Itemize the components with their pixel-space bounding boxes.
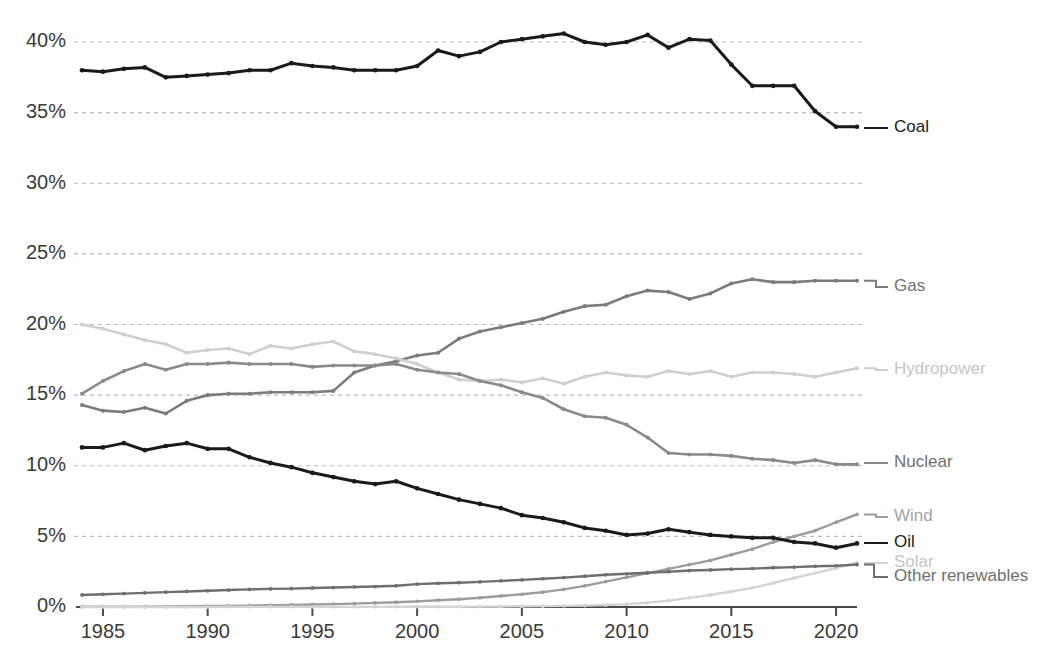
data-point: [227, 361, 231, 365]
data-point: [667, 599, 671, 603]
data-point: [331, 65, 336, 70]
legend-item-hydropower[interactable]: Hydropower: [864, 359, 986, 378]
legend-item-other-renewables[interactable]: Other renewables: [864, 565, 1028, 586]
y-tick-label: 30%: [26, 171, 66, 193]
data-point: [227, 392, 231, 396]
data-point: [813, 375, 817, 379]
data-point: [855, 124, 860, 129]
data-point: [457, 597, 461, 601]
legend-leader-line: [864, 565, 888, 577]
data-point: [436, 48, 441, 53]
data-point: [331, 389, 335, 393]
data-point: [164, 368, 168, 372]
data-point: [290, 605, 294, 609]
data-point: [583, 375, 587, 379]
data-point: [436, 581, 440, 585]
data-point: [562, 587, 566, 591]
x-tick-label: 1985: [81, 620, 126, 642]
data-point: [101, 69, 106, 74]
data-point: [813, 529, 817, 533]
series-line: [82, 325, 857, 384]
data-point: [310, 365, 314, 369]
chart-canvas: 0%5%10%15%20%25%30%35%40% 19851990199520…: [0, 0, 1051, 671]
data-point: [520, 380, 524, 384]
data-point: [771, 566, 775, 570]
data-point: [122, 441, 127, 446]
y-tick-label: 40%: [26, 29, 66, 51]
legend-group: CoalGasHydropowerNuclearWindOilSolarOthe…: [864, 117, 1028, 585]
data-point: [688, 563, 692, 567]
data-point: [101, 327, 105, 331]
y-tick-label: 10%: [26, 453, 66, 475]
data-point: [331, 605, 335, 609]
data-point: [331, 475, 336, 480]
data-point: [184, 74, 189, 79]
data-point: [310, 342, 314, 346]
gridlines-group: [74, 42, 862, 536]
legend-label: Nuclear: [894, 452, 953, 471]
data-point: [666, 527, 671, 532]
data-point: [80, 403, 84, 407]
data-point: [540, 516, 545, 521]
y-tick-label: 20%: [26, 312, 66, 334]
data-point: [813, 279, 817, 283]
y-tick-labels-group: 0%5%10%15%20%25%30%35%40%: [26, 29, 66, 616]
data-point: [834, 520, 838, 524]
data-point: [415, 605, 419, 609]
data-point: [750, 277, 754, 281]
data-point: [164, 605, 168, 609]
data-point: [666, 451, 670, 455]
legend-leader-line: [864, 515, 888, 518]
data-point: [771, 540, 775, 544]
legend-item-nuclear[interactable]: Nuclear: [864, 452, 953, 471]
legend-item-gas[interactable]: Gas: [864, 276, 925, 295]
data-point: [625, 373, 629, 377]
data-point: [268, 390, 272, 394]
data-point: [352, 479, 357, 484]
legend-label: Hydropower: [894, 359, 986, 378]
data-point: [352, 68, 357, 73]
data-point: [415, 362, 419, 366]
data-point: [520, 37, 525, 42]
data-point: [373, 363, 377, 367]
data-point: [750, 83, 755, 88]
data-point: [163, 444, 168, 449]
data-point: [561, 520, 566, 525]
data-point: [457, 372, 461, 376]
data-point: [709, 559, 713, 563]
x-tick-label: 1995: [290, 620, 335, 642]
data-point: [478, 330, 482, 334]
data-point: [164, 411, 168, 415]
data-point: [457, 605, 461, 609]
data-point: [625, 423, 629, 427]
data-point: [206, 589, 210, 593]
data-point: [457, 378, 461, 382]
data-point: [646, 435, 650, 439]
legend-item-wind[interactable]: Wind: [864, 506, 933, 525]
data-point: [80, 392, 84, 396]
data-point: [667, 570, 671, 574]
data-point: [645, 531, 650, 536]
data-point: [855, 541, 860, 546]
series-line: [82, 514, 857, 606]
data-point: [101, 605, 105, 609]
data-point: [834, 564, 838, 568]
data-point: [562, 604, 566, 608]
data-point: [708, 369, 712, 373]
data-point: [834, 462, 838, 466]
x-axis-group: [76, 607, 857, 616]
data-point: [436, 351, 440, 355]
data-point: [394, 584, 398, 588]
data-point: [729, 534, 734, 539]
data-point: [499, 594, 503, 598]
legend-item-coal[interactable]: Coal: [864, 117, 929, 136]
data-point: [373, 352, 377, 356]
data-point: [289, 465, 294, 470]
data-point: [666, 369, 670, 373]
data-point: [729, 553, 733, 557]
data-point: [624, 533, 629, 538]
legend-item-oil[interactable]: Oil: [864, 532, 915, 551]
data-point: [771, 581, 775, 585]
data-point: [541, 317, 545, 321]
y-tick-label: 25%: [26, 241, 66, 263]
